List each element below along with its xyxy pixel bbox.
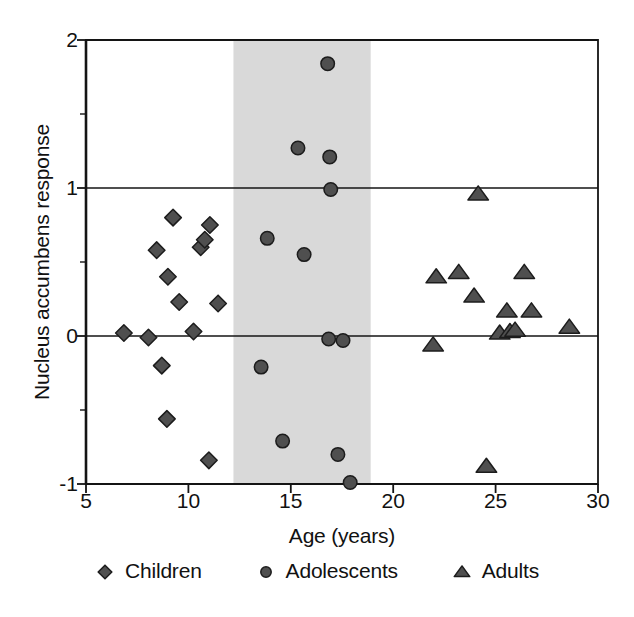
legend-marker-glyph — [260, 566, 270, 576]
x-tick-label-25: 25 — [471, 489, 521, 513]
y-axis-tick-labels: 210-1 — [0, 0, 78, 617]
data-point — [559, 319, 580, 333]
legend-marker-glyph — [98, 565, 112, 579]
data-point — [448, 264, 469, 278]
data-point — [116, 325, 133, 342]
legend-label: Adults — [482, 560, 539, 581]
x-tick-label-5: 5 — [61, 489, 111, 513]
data-point — [476, 458, 497, 472]
data-point — [165, 209, 182, 226]
data-point — [254, 360, 268, 374]
x-axis-title: Age (years) — [86, 524, 598, 548]
data-point — [423, 337, 444, 351]
triangle-marker-icon — [452, 561, 472, 581]
data-point — [153, 357, 170, 374]
data-point — [201, 452, 218, 469]
series-children — [116, 209, 227, 468]
data-point — [464, 288, 485, 302]
legend-entry-adults: Adults — [452, 560, 539, 581]
data-point — [185, 323, 202, 340]
legend-marker-glyph — [454, 565, 470, 576]
data-point — [497, 303, 518, 317]
data-point — [426, 269, 447, 283]
adolescent-range-band — [233, 40, 370, 484]
data-point — [140, 329, 157, 346]
data-point — [297, 248, 311, 262]
data-point — [343, 476, 357, 490]
x-tick-label-15: 15 — [266, 489, 316, 513]
legend-entry-adolescents: Adolescents — [256, 560, 398, 581]
circle-marker-icon — [256, 561, 276, 581]
data-point — [148, 242, 165, 259]
y-tick-label-2: 2 — [38, 28, 78, 52]
data-point — [514, 264, 535, 278]
data-point — [171, 294, 188, 311]
data-point — [331, 448, 345, 462]
data-point — [202, 217, 219, 234]
y-tick-label-0: 0 — [38, 324, 78, 348]
data-point — [321, 57, 335, 71]
y-tick-label-1: 1 — [38, 176, 78, 200]
chart-legend: ChildrenAdolescentsAdults — [0, 560, 634, 581]
data-point — [260, 232, 274, 246]
data-point — [276, 434, 290, 448]
x-tick-label-30: 30 — [573, 489, 623, 513]
data-point — [323, 150, 337, 164]
data-point — [336, 334, 350, 348]
legend-label: Adolescents — [286, 560, 398, 581]
x-tick-label-20: 20 — [368, 489, 418, 513]
legend-entry-children: Children — [95, 560, 202, 581]
series-adults — [423, 186, 580, 472]
data-point — [322, 332, 336, 346]
shaded-band-layer — [233, 40, 370, 484]
data-point — [210, 295, 227, 312]
data-point — [324, 183, 338, 197]
data-point — [160, 269, 177, 286]
legend-label: Children — [125, 560, 202, 581]
data-point — [159, 411, 176, 428]
data-point — [291, 141, 305, 155]
diamond-marker-icon — [95, 561, 115, 581]
data-point — [521, 303, 542, 317]
scatter-plot-figure: Nucleus accumbens response Age (years) 2… — [0, 0, 634, 617]
x-tick-label-10: 10 — [163, 489, 213, 513]
